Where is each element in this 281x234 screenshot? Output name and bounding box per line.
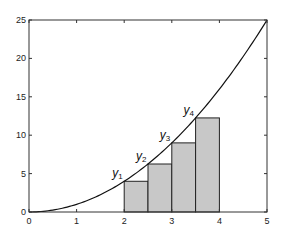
y-value-label: y2	[135, 149, 147, 164]
y-tick-label: 0	[21, 207, 26, 217]
y-tick-label: 10	[16, 130, 26, 140]
rectangle-bar	[172, 143, 196, 212]
rectangle-bar	[196, 118, 220, 212]
x-tick-label: 4	[217, 216, 222, 226]
rectangles	[124, 118, 219, 212]
x-tick-label: 2	[122, 216, 127, 226]
y-tick-label: 5	[21, 169, 26, 179]
y-value-label: y3	[159, 128, 171, 143]
x-tick-label: 0	[26, 216, 31, 226]
x-tick-label: 5	[264, 216, 269, 226]
y-value-label: y1	[111, 166, 123, 181]
x-tick-label: 3	[169, 216, 174, 226]
y-value-label: y4	[183, 103, 195, 118]
rectangle-bar	[148, 164, 172, 212]
chart-canvas: 0123450510152025y1y2y3y4	[0, 0, 281, 234]
y-tick-label: 15	[16, 92, 26, 102]
y-tick-label: 25	[16, 15, 26, 25]
rectangle-bar	[124, 181, 148, 212]
y-tick-label: 20	[16, 53, 26, 63]
plot-area	[29, 20, 267, 212]
x-tick-label: 1	[74, 216, 79, 226]
